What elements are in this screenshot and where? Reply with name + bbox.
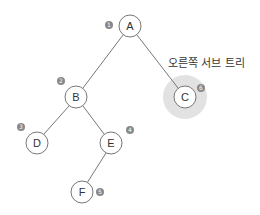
order-number-5: 5 [98, 188, 102, 195]
edge-e-f [87, 153, 106, 183]
edge-a-b [83, 35, 123, 88]
order-number-1: 1 [107, 21, 111, 28]
node-label-d: D [33, 137, 41, 149]
node-label-b: B [72, 91, 79, 103]
tree-diagram: 1 2 3 4 5 6 A B D E F C [0, 0, 260, 215]
edge-b-d [44, 106, 69, 134]
node-label-f: F [79, 186, 86, 198]
order-number-6: 6 [199, 84, 203, 91]
node-label-e: E [107, 137, 114, 149]
right-subtree-caption: 오른쪽 서브 트리 [168, 54, 245, 70]
order-number-4: 4 [128, 126, 132, 133]
edge-b-e [83, 106, 104, 134]
node-label-c: C [181, 91, 189, 103]
node-label-a: A [126, 20, 134, 32]
order-number-2: 2 [59, 77, 63, 84]
order-number-3: 3 [19, 123, 23, 130]
